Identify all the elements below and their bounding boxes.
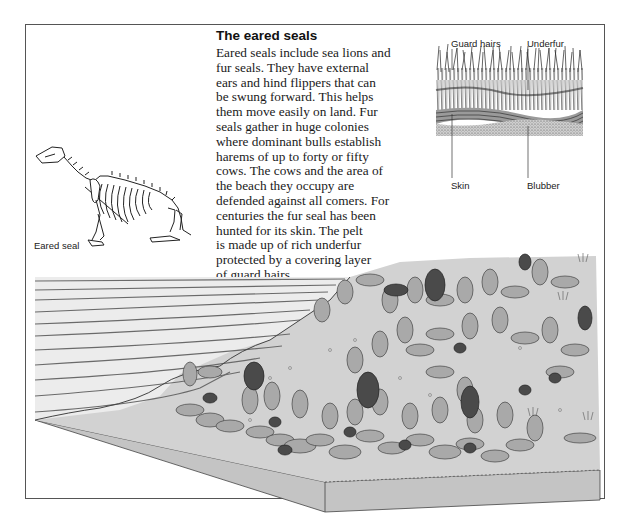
seal-colony-illustration: [0, 0, 625, 531]
